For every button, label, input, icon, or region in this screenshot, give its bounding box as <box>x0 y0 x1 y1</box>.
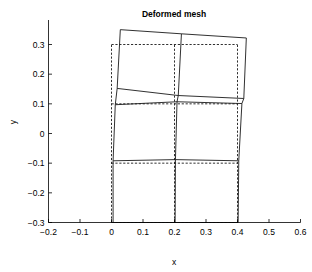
y-tick-label: 0.3 <box>33 40 45 50</box>
y-axis-label: y <box>8 119 18 124</box>
deformed-mesh-line <box>175 34 181 223</box>
x-tick-label: 0.6 <box>295 227 307 237</box>
x-tick-label: 0 <box>109 227 114 237</box>
x-tick-label: −0.1 <box>72 227 89 237</box>
y-tick-label: 0.1 <box>33 99 45 109</box>
y-tick-label: −0.1 <box>28 158 45 168</box>
x-tick-label: −0.2 <box>40 227 57 237</box>
x-tick-label: 0.2 <box>169 227 181 237</box>
y-tick-label: 0 <box>40 129 45 139</box>
deformed-mesh-series <box>113 30 246 223</box>
y-tick-label: 0.2 <box>33 69 45 79</box>
deformed-mesh-figure: Deformed mesh −0.3−0.2−0.100.10.20.3 −0.… <box>0 0 312 272</box>
deformed-mesh-line <box>113 30 120 223</box>
plot-canvas: Deformed mesh −0.3−0.2−0.100.10.20.3 −0.… <box>0 0 312 272</box>
x-tick-label: 0.4 <box>232 227 244 237</box>
y-tick-label: −0.2 <box>28 188 45 198</box>
deformed-mesh-line <box>117 88 244 98</box>
x-tick-label: 0.5 <box>263 227 275 237</box>
x-tick-label: 0.1 <box>137 227 149 237</box>
chart-title: Deformed mesh <box>142 9 206 19</box>
deformed-mesh-line <box>238 38 246 223</box>
deformed-mesh-line <box>120 30 246 38</box>
x-axis-label: x <box>172 257 177 267</box>
x-axis-ticks: −0.2−0.100.10.20.30.40.50.6 <box>40 219 307 237</box>
x-tick-label: 0.3 <box>200 227 212 237</box>
original-mesh-series <box>112 45 238 223</box>
deformed-mesh-line <box>113 160 239 161</box>
